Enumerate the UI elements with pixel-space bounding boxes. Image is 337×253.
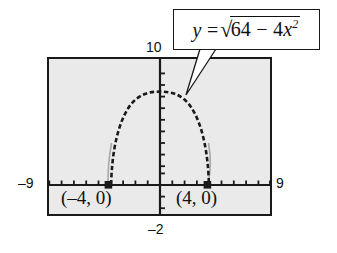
equation-equals: =: [207, 19, 218, 41]
x-intercept-left-label: (–4, 0): [61, 188, 112, 207]
radical-group: √64 − 4x2: [218, 17, 300, 43]
y-max-label: 10: [146, 40, 162, 54]
equation-callout-box: y =√64 − 4x2: [173, 9, 320, 50]
radicand-main: 64 − 4: [231, 18, 283, 40]
x-min-label: –9: [18, 176, 34, 190]
x-intercept-right-label: (4, 0): [176, 188, 217, 207]
x-max-label: 9: [276, 176, 284, 190]
radicand-variable: x: [283, 18, 292, 40]
radicand: 64 − 4x2: [230, 16, 301, 41]
figure-canvas: 10 –9 9 –2 (–4, 0) (4, 0) y =√64 − 4x2: [0, 0, 337, 253]
equation-lhs: y: [193, 19, 202, 41]
y-min-label: –2: [148, 222, 164, 236]
radicand-exponent: 2: [292, 17, 298, 31]
equation-text: y =√64 − 4x2: [193, 17, 301, 43]
